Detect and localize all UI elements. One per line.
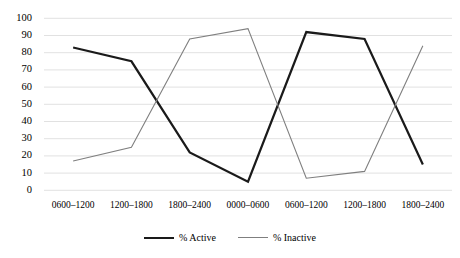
- x-axis-tick: 0600–1200: [44, 200, 102, 211]
- series-lines: [73, 29, 423, 182]
- y-axis-tick: 30: [2, 132, 32, 143]
- y-axis-tick: 60: [2, 81, 32, 92]
- x-axis-tick: 1200–1800: [102, 200, 160, 211]
- x-axis-tick: 1800–2400: [161, 200, 219, 211]
- y-axis-tick: 70: [2, 63, 32, 74]
- line-chart: 0102030405060708090100 0600–12001200–180…: [0, 0, 460, 258]
- y-axis-tick: 100: [2, 12, 32, 23]
- x-axis-tick: 0600–1200: [277, 200, 335, 211]
- y-axis-tick: 0: [2, 184, 32, 195]
- y-axis-tick: 80: [2, 46, 32, 57]
- legend-line-inactive-icon: [238, 237, 268, 238]
- y-axis-tick: 20: [2, 149, 32, 160]
- x-axis-tick: 1200–1800: [335, 200, 393, 211]
- chart-plot-area: [0, 0, 460, 258]
- legend-item-active[interactable]: % Active: [144, 232, 216, 243]
- legend-line-active-icon: [144, 237, 174, 239]
- legend-label-active: % Active: [179, 232, 216, 243]
- legend-label-inactive: % Inactive: [273, 232, 316, 243]
- y-axis-tick: 10: [2, 167, 32, 178]
- chart-legend: % Active % Inactive: [0, 232, 460, 243]
- x-axis-tick: 1800–2400: [394, 200, 452, 211]
- y-axis-tick: 40: [2, 115, 32, 126]
- y-axis-tick: 90: [2, 29, 32, 40]
- gridlines: [44, 18, 452, 190]
- y-axis-tick: 50: [2, 98, 32, 109]
- legend-item-inactive[interactable]: % Inactive: [238, 232, 316, 243]
- x-axis-tick: 0000–0600: [219, 200, 277, 211]
